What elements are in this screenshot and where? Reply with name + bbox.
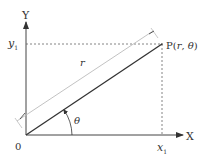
radius-label: r [80, 57, 86, 68]
angle-theta-label: θ [74, 115, 80, 126]
x1-label: x1 [157, 141, 167, 155]
y-axis-label: Y [21, 9, 30, 22]
angle-arc [64, 110, 72, 135]
radius-dimension [15, 28, 158, 128]
diagram-canvas: Y X 0 y1 x1 P(r, θ) r θ [0, 0, 205, 159]
radius-line-op [26, 44, 162, 135]
polar-coordinate-diagram: Y X 0 y1 x1 P(r, θ) r θ [0, 0, 205, 159]
y1-label: y1 [7, 37, 18, 51]
point-p-marker [161, 43, 163, 45]
origin-label: 0 [15, 141, 21, 152]
x-axis-label: X [186, 130, 194, 143]
point-p-label: P(r, θ) [166, 40, 198, 51]
